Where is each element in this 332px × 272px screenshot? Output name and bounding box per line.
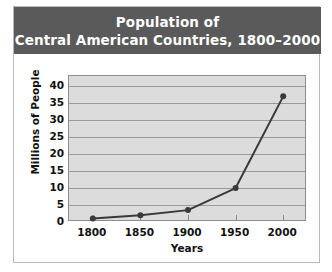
y-axis-tick-label: 20 (34, 147, 64, 159)
chart-title-band: Population of Central American Countries… (14, 7, 321, 54)
y-axis-tick-labels: 4035302520151050 (30, 75, 64, 221)
x-axis-tick-label: 2000 (259, 226, 305, 238)
x-axis-tick-label: 1900 (164, 226, 210, 238)
chart-figure: Population of Central American Countries… (13, 6, 320, 263)
chart-title-line-1: Population of (116, 13, 219, 31)
data-point-marker: 1900: 3.5 (185, 207, 191, 213)
x-axis-tick-label: 1950 (212, 226, 258, 238)
y-axis-tick-label: 5 (34, 198, 64, 210)
y-axis-tick-label: 35 (34, 96, 64, 108)
data-series-layer: 1800: 11850: 21900: 3.51950: 102000: 37 (69, 76, 307, 222)
y-axis-tick-label: 0 (34, 215, 64, 227)
y-axis-tick-label: 25 (34, 130, 64, 142)
chart-body: Millions of People 4035302520151050 1800… (14, 54, 321, 264)
x-axis-tick-labels: 18001850190019502000 (68, 226, 306, 240)
x-axis-tick-label: 1850 (116, 226, 162, 238)
y-axis-tick-label: 10 (34, 181, 64, 193)
data-point-marker: 1800: 1 (90, 216, 96, 222)
chart-title-line-2: Central American Countries, 1800–2000 (15, 31, 320, 49)
y-axis-tick-label: 15 (34, 164, 64, 176)
data-point-marker: 2000: 37 (280, 93, 286, 99)
y-axis-tick-label: 40 (34, 79, 64, 91)
data-point-marker: 1850: 2 (137, 212, 143, 218)
series-line (93, 96, 283, 218)
y-axis-tick-label: 30 (34, 113, 64, 125)
plot-area: 1800: 11850: 21900: 3.51950: 102000: 37 (68, 75, 306, 221)
x-axis-title: Years (68, 242, 306, 254)
plot-inner: 1800: 11850: 21900: 3.51950: 102000: 37 (69, 76, 305, 220)
x-axis-tick-label: 1800 (69, 226, 115, 238)
data-point-marker: 1950: 10 (233, 185, 239, 191)
